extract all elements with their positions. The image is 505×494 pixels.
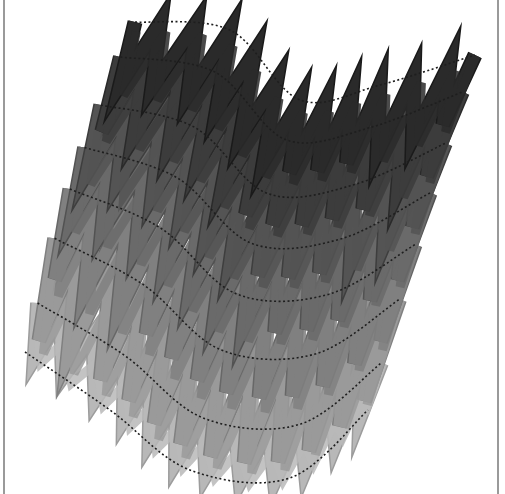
zigzag-mesh-diagram xyxy=(0,0,505,494)
zigzag-bands xyxy=(34,22,475,483)
